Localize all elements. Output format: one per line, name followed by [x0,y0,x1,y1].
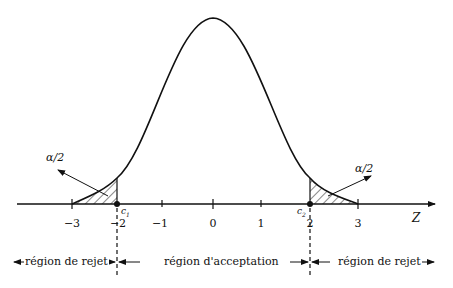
tick-label: 1 [258,218,265,229]
tick-label: 0 [210,218,217,229]
axis-label-z: Z [412,212,420,224]
left-alpha-arrow [58,170,108,196]
normal-curve [72,18,358,204]
critical-point-c1 [114,201,120,207]
left-tail-area [72,178,117,204]
left-alpha-label: α/2 [46,152,64,163]
tick-label: 3 [355,218,362,229]
critical-label-c2: c2 [297,207,306,218]
right-alpha-label: α/2 [355,163,373,174]
tick-label: −2 [110,218,126,229]
diagram-canvas [0,0,453,288]
right-tail-area [310,178,358,204]
region-label-acceptance: région d'acceptation [163,256,280,267]
tick-label: −3 [64,218,80,229]
tick-label: −1 [152,218,168,229]
region-label-left-rejection: région de rejet [24,256,109,267]
critical-point-c2 [307,201,313,207]
right-alpha-arrow [328,176,371,196]
critical-label-c1: c1 [121,207,130,218]
tick-label: 2 [307,218,314,229]
region-label-right-rejection: région de rejet [337,256,422,267]
